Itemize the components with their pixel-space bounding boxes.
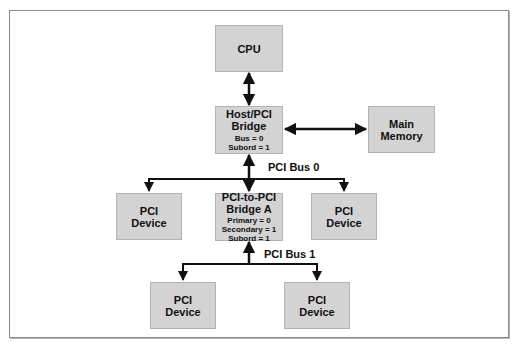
pci-device-bottom-right-box: PCI Device [284,282,350,329]
pci-device-left-box: PCI Device [116,193,182,240]
pci-device-right-box: PCI Device [311,193,377,240]
main-memory-label-2: Memory [380,130,422,142]
pci-bus-1-label: PCI Bus 1 [264,248,315,260]
cpu-label: CPU [237,43,260,55]
pci-bus-0-line [149,179,344,191]
pci-device-bottom-left-box: PCI Device [150,282,216,329]
pci-device-bottom-left-label-2: Device [165,306,200,318]
bridge-a-title-1: PCI-to-PCI [222,191,276,203]
main-memory-box: Main Memory [368,106,435,153]
bridge-a-primary: Primary = 0 [227,216,270,225]
pci-device-bottom-right-label-2: Device [299,306,334,318]
main-memory-label-1: Main [389,118,414,130]
pci-to-pci-bridge-a-box: PCI-to-PCI Bridge A Primary = 0 Secondar… [215,193,283,241]
host-pci-bridge-box: Host/PCI Bridge Bus = 0 Subord = 1 [215,106,283,154]
bridge-a-subord: Subord = 1 [228,234,270,243]
pci-device-right-label-2: Device [326,217,361,229]
pci-device-right-label-1: PCI [335,205,353,217]
pci-device-bottom-right-label-1: PCI [308,294,326,306]
bridge-a-secondary: Secondary = 1 [222,225,276,234]
bridge-a-title-2: Bridge A [226,203,271,215]
pci-bus-0-label: PCI Bus 0 [268,161,319,173]
cpu-box: CPU [215,25,283,72]
pci-bus-1-line [183,264,317,280]
pci-device-left-label-1: PCI [140,205,158,217]
host-bridge-bus: Bus = 0 [235,134,264,143]
host-bridge-title-2: Bridge [232,120,267,132]
pci-device-bottom-left-label-1: PCI [174,294,192,306]
host-bridge-subord: Subord = 1 [228,143,270,152]
host-bridge-title-1: Host/PCI [226,108,272,120]
pci-device-left-label-2: Device [131,217,166,229]
